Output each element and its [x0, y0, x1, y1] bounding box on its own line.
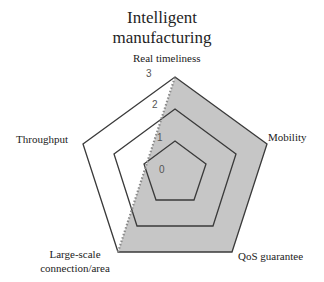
axis-label-large-scale: Large-scale connection/area — [25, 247, 125, 275]
axis-label-qos-guarantee: QoS guarantee — [238, 250, 303, 262]
axis-label-large-scale-line-1: Large-scale — [25, 247, 125, 261]
tick-2: 2 — [152, 99, 158, 110]
tick-3: 3 — [146, 68, 152, 79]
axis-label-mobility: Mobility — [268, 131, 307, 143]
axis-label-large-scale-line-2: connection/area — [25, 261, 125, 275]
tick-1: 1 — [157, 132, 163, 143]
axis-label-real-timeliness: Real timeliness — [133, 52, 201, 64]
tick-0: 0 — [159, 164, 165, 175]
axis-label-throughput: Throughput — [16, 133, 68, 145]
